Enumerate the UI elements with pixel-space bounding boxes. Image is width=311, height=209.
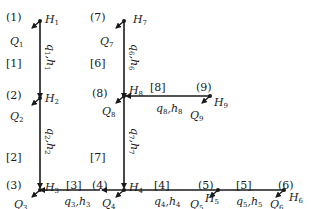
node-9-label: (9) <box>196 82 212 93</box>
node-5-head: H5 <box>205 193 219 206</box>
node-4-flow: Q4 <box>102 198 116 209</box>
node-6-flow: Q6 <box>270 199 284 209</box>
node-4-head: H4 <box>129 182 143 195</box>
node-6-head: H6 <box>289 192 303 205</box>
pipe-3-qh: q3,h3 <box>64 196 91 209</box>
pipe-2-label: [2] <box>6 152 22 163</box>
node-8-label: (8) <box>92 88 108 99</box>
node-4-dot <box>122 188 126 192</box>
node-6-label: (6) <box>278 180 294 191</box>
node-4-label: (4) <box>92 180 108 191</box>
pipe-6-label: [6] <box>90 58 106 69</box>
node-5-label: (5) <box>198 180 214 191</box>
pipe-8-qh: q8,h8 <box>156 103 183 116</box>
node-2-flow: Q2 <box>10 111 24 124</box>
pipe-1-label: [1] <box>6 58 22 69</box>
node-2-dot <box>38 96 42 100</box>
node-8-flow: Q8 <box>102 106 116 119</box>
node-7-flow: Q7 <box>100 36 114 49</box>
node-2-head: H2 <box>45 93 59 106</box>
node-9-dot <box>208 94 212 98</box>
pipe-8-label: [8] <box>150 82 166 93</box>
pipe-4-qh: q4,h4 <box>154 196 181 209</box>
node-1-flow: Q1 <box>10 36 24 49</box>
pipe-4-label: [4] <box>154 180 170 191</box>
node-9-head: H9 <box>214 97 228 110</box>
node-7-dot <box>122 19 126 23</box>
node-1-label: (1) <box>6 12 22 23</box>
node-5-flow: Q5 <box>190 199 204 209</box>
node-7-label: (7) <box>90 12 106 23</box>
node-3-head: H3 <box>45 182 59 195</box>
pipe-1-qh: q1,h1 <box>43 44 56 71</box>
node-7-head: H7 <box>133 14 147 27</box>
pipe-2-qh: q2,h2 <box>43 128 56 155</box>
pipe-5-qh: q5,h5 <box>236 196 263 209</box>
node-9-flow: Q9 <box>190 110 204 123</box>
node-3-label: (3) <box>6 180 22 191</box>
node-8-dot <box>122 94 126 98</box>
node-1-head: H1 <box>45 14 59 27</box>
node-1-dot <box>38 19 42 23</box>
pipe-3-label: [3] <box>66 180 82 191</box>
node-5-dot <box>216 188 220 192</box>
pipe-6-qh: q6,h6 <box>127 44 140 71</box>
pipe-7-qh: q7,h7 <box>127 128 140 155</box>
node-8-head: H8 <box>129 85 143 98</box>
node-3-dot <box>38 188 42 192</box>
node-2-label: (2) <box>6 90 22 101</box>
node-3-flow: Q3 <box>14 199 28 209</box>
pipe-7-label: [7] <box>90 152 106 163</box>
pipe-5-label: [5] <box>236 180 252 191</box>
